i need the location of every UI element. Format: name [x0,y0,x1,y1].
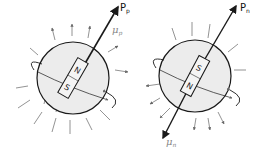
proton-spin-label: Pp [120,2,130,15]
neutron-moment-label: μn [166,136,177,147]
nucleon-diagram: N S Pp μp [0,0,267,147]
proton-moment-label: μp [112,24,123,37]
neutron-spin-label: Pn [240,2,250,14]
neutron-group: S N Pn μn [146,2,250,147]
proton-group: N S Pp μp [16,2,130,134]
